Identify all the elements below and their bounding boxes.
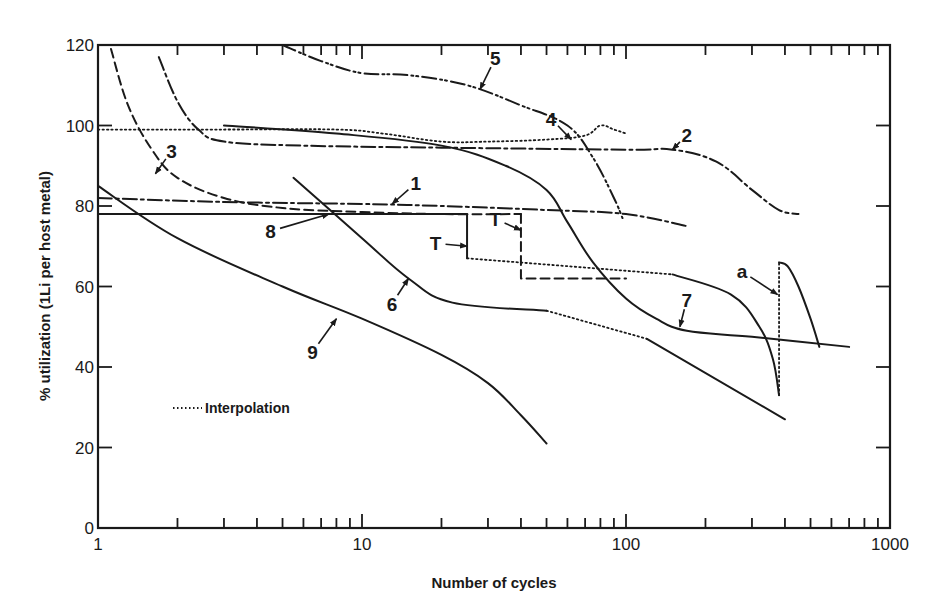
y-tick-label: 120 (66, 36, 94, 55)
series-a (779, 262, 819, 395)
plot-frame (98, 45, 890, 528)
x-tick-label: 100 (612, 535, 640, 554)
x-tick-label: 1000 (871, 535, 909, 554)
curve-a-solid (779, 262, 819, 347)
legend: Interpolation (173, 400, 290, 416)
curve-label-T: T (430, 233, 442, 254)
curve-label-8: 8 (265, 221, 276, 242)
x-tick-label: 10 (353, 535, 372, 554)
y-tick-label: 80 (75, 197, 94, 216)
curves (98, 45, 849, 443)
curve-5-dashdotdot (283, 45, 623, 218)
y-tick-label: 20 (75, 439, 94, 458)
series-5 (283, 45, 623, 218)
arrow-7 (680, 309, 684, 326)
series-7 (224, 126, 849, 347)
curve-label-4: 4 (546, 109, 557, 130)
arrow-6 (398, 278, 409, 295)
curve-6-solid (293, 178, 546, 311)
arrow-5 (480, 67, 491, 89)
curve-label-1: 1 (411, 173, 422, 194)
curve-2-dashdot (159, 57, 799, 214)
curve-label-3: 3 (166, 141, 177, 162)
axes: 1101001000020406080100120 (66, 36, 909, 554)
y-tick-label: 100 (66, 117, 94, 136)
curve-label-6: 6 (387, 294, 398, 315)
y-tick-label: 40 (75, 358, 94, 377)
arrow-2 (672, 142, 679, 150)
y-tick-label: 0 (85, 519, 94, 538)
curve-label-9: 9 (307, 342, 318, 363)
legend-label-interpolation: Interpolation (205, 400, 290, 416)
curve-8-solid (98, 214, 467, 258)
arrow-1 (392, 190, 408, 204)
x-tick-label: 1 (93, 535, 102, 554)
curve-1-dashdot (98, 198, 687, 226)
curve-label-7: 7 (682, 290, 693, 311)
arrow-T (446, 244, 468, 246)
curve-9-solid (98, 186, 547, 444)
arrow-T (505, 223, 521, 230)
arrow-a (750, 277, 777, 295)
chart: 1101001000020406080100120 123456789TTa I… (0, 0, 947, 616)
curve-label-5: 5 (490, 48, 501, 69)
y-axis-title: % utilization (1Li per host metal) (36, 171, 53, 401)
curve-label-a: a (737, 261, 748, 282)
curve-label-T: T (490, 209, 502, 230)
arrow-9 (318, 319, 336, 344)
arrow-8 (280, 214, 329, 228)
series-9 (98, 186, 547, 444)
curve-8-dotted (467, 258, 672, 274)
annotations: 123456789TTa (155, 48, 777, 363)
x-axis-title: Number of cycles (431, 574, 556, 591)
curve-6-dotted (547, 311, 647, 339)
series-2 (159, 57, 799, 214)
series-1 (98, 198, 687, 226)
curve-label-2: 2 (682, 125, 693, 146)
y-tick-label: 60 (75, 278, 94, 297)
curve-6-solid (647, 339, 785, 420)
curve-7-solid (224, 126, 849, 347)
